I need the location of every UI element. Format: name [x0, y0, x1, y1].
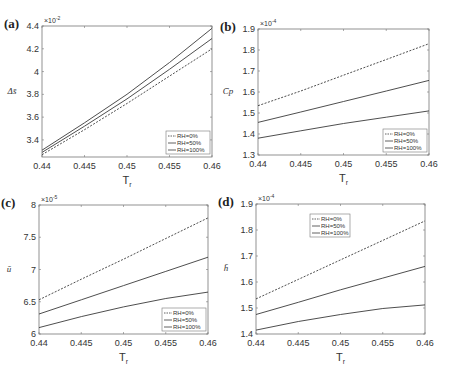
- legend-entry: RH=50%: [177, 140, 202, 146]
- y-tick-label: 1.5: [242, 108, 255, 118]
- x-axis-label: Tr: [122, 174, 132, 188]
- legend-entry: RH=0%: [394, 131, 416, 137]
- chart-panel-a: (a)×10-20.440.4450.450.4550.463.43.63.84…: [4, 15, 221, 188]
- y-tick-label: 3.6: [26, 112, 39, 122]
- legend-entry: RH=100%: [321, 230, 349, 236]
- y-tick-label: 1.8: [242, 45, 255, 55]
- y-tick-label: 1.9: [240, 199, 253, 209]
- y-multiplier: ×10-4: [260, 18, 277, 27]
- x-tick-label: 0.445: [287, 338, 310, 348]
- y-tick-label: 1.6: [242, 87, 255, 97]
- y-tick-label: 8: [31, 200, 36, 210]
- x-tick-label: 0.46: [203, 161, 221, 171]
- y-tick-label: 4.2: [26, 44, 39, 54]
- series-line-rh0: [258, 44, 429, 106]
- legend-entry: RH=0%: [177, 133, 199, 139]
- x-tick-label: 0.455: [375, 159, 398, 169]
- x-tick-label: 0.46: [416, 338, 434, 348]
- legend-entry: RH=50%: [173, 317, 198, 323]
- x-tick-label: 0.45: [332, 338, 350, 348]
- y-tick-label: 4: [34, 67, 39, 77]
- figure: (a)×10-20.440.4450.450.4550.463.43.63.84…: [0, 0, 451, 377]
- y-multiplier: ×10-5: [41, 194, 58, 203]
- panel-label: (b): [220, 19, 236, 34]
- y-multiplier: ×10-2: [44, 15, 61, 24]
- y-tick-label: 4.4: [26, 21, 39, 31]
- x-tick-label: 0.44: [33, 161, 51, 171]
- y-tick-label: 1.7: [242, 66, 255, 76]
- y-tick-label: 3.4: [26, 135, 39, 145]
- x-tick-label: 0.44: [30, 338, 48, 348]
- x-tick-label: 0.455: [158, 161, 181, 171]
- y-tick-label: 1.9: [242, 24, 255, 34]
- y-tick-label: 6.5: [23, 297, 36, 307]
- series-line-rh50: [39, 257, 208, 314]
- y-tick-label: 1.4: [242, 129, 255, 139]
- y-tick-label: 6: [31, 329, 36, 339]
- panel-label: (d): [218, 194, 234, 209]
- legend: RH=0%RH=50%RH=100%: [383, 129, 427, 152]
- y-axis-label: Δs̄: [7, 86, 18, 96]
- y-tick-label: 1.7: [240, 251, 253, 261]
- x-tick-label: 0.46: [199, 338, 217, 348]
- x-tick-label: 0.45: [335, 159, 353, 169]
- y-axis-label: C̄p: [223, 86, 234, 96]
- x-tick-label: 0.44: [247, 338, 265, 348]
- x-axis-label: Tr: [119, 351, 129, 365]
- y-multiplier: ×10-4: [258, 193, 275, 202]
- y-tick-label: 7: [31, 265, 36, 275]
- y-tick-label: 1.6: [240, 277, 253, 287]
- y-tick-label: 1.5: [240, 303, 253, 313]
- x-tick-label: 0.445: [289, 159, 312, 169]
- x-tick-label: 0.445: [73, 161, 96, 171]
- panel-label: (a): [4, 16, 19, 31]
- x-tick-label: 0.455: [371, 338, 394, 348]
- x-tick-label: 0.445: [70, 338, 93, 348]
- x-tick-label: 0.44: [249, 159, 267, 169]
- legend-entry: RH=100%: [394, 145, 422, 151]
- x-axis-label: Tr: [339, 172, 349, 186]
- y-tick-label: 1.4: [240, 329, 253, 339]
- y-tick-label: 1.3: [242, 150, 255, 160]
- legend: RH=0%RH=50%RH=100%: [166, 131, 210, 154]
- series-line-rh0: [39, 218, 208, 300]
- x-tick-label: 0.46: [420, 159, 438, 169]
- y-tick-label: 1.8: [240, 225, 253, 235]
- chart-panel-b: (b)×10-40.440.4450.450.4550.461.31.41.51…: [220, 18, 438, 186]
- x-tick-label: 0.45: [118, 161, 136, 171]
- legend: RH=0%RH=50%RH=100%: [310, 214, 350, 237]
- legend-entry: RH=50%: [321, 223, 346, 229]
- series-line-rh100: [256, 305, 425, 330]
- x-tick-label: 0.45: [115, 338, 133, 348]
- chart-panel-d: (d)×10-40.440.4450.450.4550.461.41.51.61…: [218, 193, 434, 365]
- legend-entry: RH=0%: [321, 216, 343, 222]
- legend-entry: RH=100%: [173, 324, 201, 330]
- legend: RH=0%RH=50%RH=100%: [162, 308, 206, 331]
- y-axis-label: ū: [7, 264, 12, 274]
- legend-entry: RH=50%: [394, 138, 419, 144]
- chart-panel-c: (c)×10-50.440.4450.450.4550.4666.577.58T…: [1, 194, 217, 365]
- panel-label: (c): [1, 195, 15, 210]
- y-tick-label: 3.8: [26, 89, 39, 99]
- x-axis-label: Tr: [336, 351, 346, 365]
- x-tick-label: 0.455: [154, 338, 177, 348]
- series-line-rh50: [258, 80, 429, 122]
- y-axis-label: h̄: [224, 263, 229, 273]
- y-tick-label: 7.5: [23, 232, 36, 242]
- legend-entry: RH=0%: [173, 310, 195, 316]
- legend-entry: RH=100%: [177, 147, 205, 153]
